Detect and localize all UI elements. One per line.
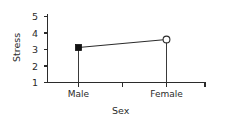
x-axis-title: Sex — [112, 106, 129, 116]
data-point-female-marker — [163, 36, 170, 43]
x-tick-label-female: Female — [145, 90, 189, 99]
x-tick-label-male: Male — [59, 90, 99, 99]
y-axis-title: Stress — [12, 33, 22, 62]
y-tick-label-4: 4 — [24, 29, 38, 39]
y-tick-label-5: 5 — [24, 12, 38, 22]
series-line-stress — [79, 40, 167, 48]
data-point-male-marker — [76, 45, 82, 51]
y-tick-label-2: 2 — [24, 62, 38, 72]
y-tick-label-1: 1 — [24, 78, 38, 88]
stress-by-sex-line-chart: 5 4 3 2 1 Male Female Stress Sex — [0, 0, 245, 123]
y-tick-label-3: 3 — [24, 45, 38, 55]
